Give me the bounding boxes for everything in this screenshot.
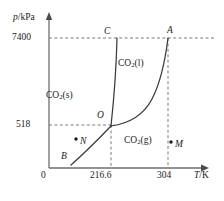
y-axis-arrow-icon — [46, 12, 52, 20]
point-label-C: C — [104, 27, 110, 37]
diagram-canvas — [0, 0, 224, 201]
point-label-M: M — [175, 140, 183, 150]
sublimation-curve — [71, 126, 111, 165]
point-N-dot — [74, 137, 77, 140]
x-axis-label: T/K — [194, 171, 209, 181]
fusion-curve — [111, 38, 117, 126]
y-tick-7400: 7400 — [12, 33, 31, 43]
vaporization-curve — [111, 38, 168, 126]
x-tick-216-6: 216.6 — [90, 171, 111, 181]
solid-region-label: CO2(s) — [46, 91, 73, 101]
reference-lines — [49, 38, 214, 168]
x-tick-304: 304 — [157, 171, 171, 181]
point-label-B: B — [61, 152, 67, 162]
point-label-A: A — [167, 26, 173, 36]
y-tick-518: 518 — [16, 120, 30, 130]
point-M-dot — [169, 140, 172, 143]
y-axis-label: p/kPa — [13, 13, 35, 23]
point-label-N: N — [80, 137, 86, 147]
gas-region-label: CO2(g) — [124, 136, 152, 146]
point-label-O: O — [97, 111, 104, 121]
co2-phase-diagram: p/kPa T/K 7400 518 0 216.6 304 A C O B N… — [0, 0, 224, 201]
liquid-region-label: CO2(l) — [118, 59, 144, 69]
origin-tick-0: 0 — [41, 171, 46, 181]
